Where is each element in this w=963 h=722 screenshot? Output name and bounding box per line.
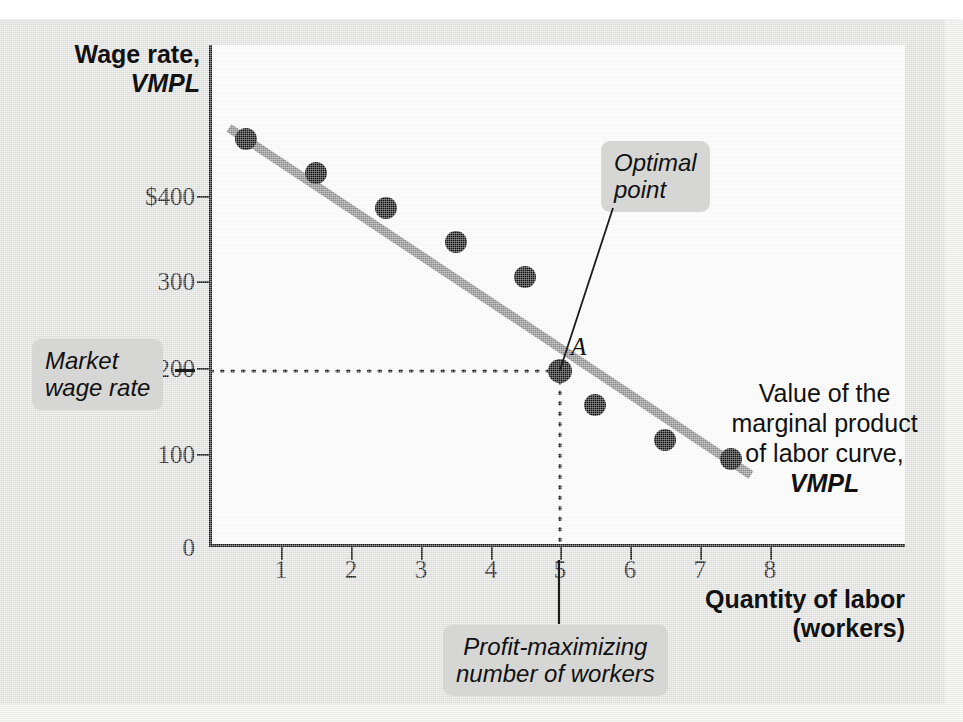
x-tick-label-7: 7 bbox=[694, 556, 707, 584]
page-right-margin bbox=[945, 19, 963, 722]
x-tick-5 bbox=[560, 545, 562, 560]
market-wage-rate-callout: Market wage rate bbox=[32, 339, 163, 410]
data-point-optimal bbox=[548, 359, 572, 383]
x-tick-2 bbox=[351, 545, 353, 560]
market-wage-line1: Market bbox=[45, 347, 118, 374]
point-a-label: A bbox=[571, 333, 586, 361]
y-tick-label-100: 100 bbox=[35, 441, 195, 469]
x-tick-4 bbox=[491, 545, 493, 560]
x-axis-title-line2: (workers) bbox=[792, 614, 905, 642]
y-axis-title: Wage rate, VMPL bbox=[40, 40, 200, 98]
x-axis-line bbox=[209, 544, 905, 547]
x-axis-title-line1: Quantity of labor bbox=[705, 585, 905, 613]
data-point bbox=[584, 394, 606, 416]
x-tick-label-5: 5 bbox=[554, 556, 567, 584]
market-wage-leader-dash bbox=[175, 369, 195, 372]
y-tick-label-400: $400 bbox=[35, 183, 195, 211]
y-axis-title-line2: VMPL bbox=[131, 69, 200, 97]
data-point bbox=[235, 128, 257, 150]
figure-container: Wage rate, VMPL bbox=[0, 0, 963, 722]
optimal-point-callout: Optimal point bbox=[601, 141, 710, 212]
x-tick-label-2: 2 bbox=[345, 556, 358, 584]
x-tick-8 bbox=[770, 545, 772, 560]
x-tick-label-6: 6 bbox=[624, 556, 637, 584]
vmpl-curve-label: Value of the marginal product of labor c… bbox=[722, 378, 927, 498]
x-tick-label-4: 4 bbox=[485, 556, 498, 584]
y-tick-label-0: 0 bbox=[35, 534, 195, 562]
curve-label-line3: of labor curve, bbox=[745, 439, 903, 467]
market-wage-line2: wage rate bbox=[45, 374, 150, 401]
x-tick-label-3: 3 bbox=[415, 556, 428, 584]
optimal-point-line1: Optimal bbox=[614, 149, 697, 176]
x-tick-label-1: 1 bbox=[275, 556, 288, 584]
curve-label-line2: marginal product bbox=[731, 409, 917, 437]
y-axis-line bbox=[209, 45, 212, 547]
y-axis-title-line1: Wage rate, bbox=[74, 40, 200, 68]
page-top-margin bbox=[0, 0, 963, 19]
x-tick-6 bbox=[630, 545, 632, 560]
data-point bbox=[375, 197, 397, 219]
x-tick-3 bbox=[421, 545, 423, 560]
x-tick-7 bbox=[700, 545, 702, 560]
optimal-point-line2: point bbox=[614, 176, 666, 203]
profit-max-line2: number of workers bbox=[456, 660, 655, 687]
data-point bbox=[654, 429, 676, 451]
page-bottom-margin bbox=[0, 704, 963, 722]
x-tick-label-8: 8 bbox=[764, 556, 777, 584]
x-tick-1 bbox=[281, 545, 283, 560]
y-tick-label-300: 300 bbox=[35, 268, 195, 296]
data-point bbox=[514, 266, 536, 288]
curve-label-line4: VMPL bbox=[790, 469, 859, 497]
curve-label-line1: Value of the bbox=[759, 379, 891, 407]
x-axis-title: Quantity of labor (workers) bbox=[575, 585, 905, 643]
data-point bbox=[445, 231, 467, 253]
data-point bbox=[305, 162, 327, 184]
